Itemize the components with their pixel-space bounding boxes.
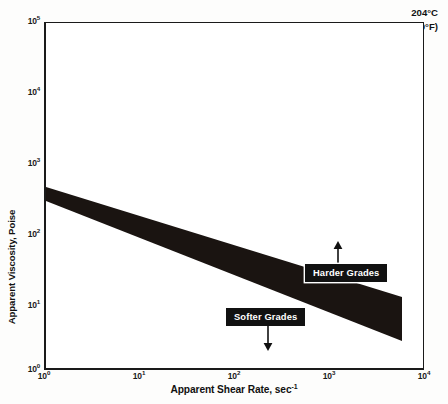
x-tick-label-4: 104 (404, 372, 444, 383)
y-tick-label-3: 102 (0, 230, 40, 240)
y-tick-label-4: 101 (0, 301, 40, 311)
harder-grades-label: Harder Grades (305, 264, 387, 282)
softer-grades-arrow-down-icon (262, 323, 274, 351)
x-tick-label-0: 100 (24, 372, 64, 383)
x-axis-title-exponent: -1 (292, 383, 298, 390)
temperature-celsius: 204°C (406, 6, 438, 20)
x-tick-label-2: 102 (214, 372, 254, 383)
x-axis-title-text: Apparent Shear Rate, sec (170, 384, 291, 395)
x-tick-label-3: 103 (309, 372, 349, 383)
y-tick-label-0: 105 (0, 17, 40, 27)
x-tick-label-1: 101 (119, 372, 159, 383)
x-axis-title: Apparent Shear Rate, sec-1 (44, 384, 424, 395)
y-tick-label-1: 104 (0, 88, 40, 98)
chart-figure: 204°C (400°F) Apparent Viscosity, Poise … (0, 0, 448, 404)
y-tick-label-2: 103 (0, 159, 40, 169)
y-axis-title: Apparent Viscosity, Poise (6, 192, 17, 342)
